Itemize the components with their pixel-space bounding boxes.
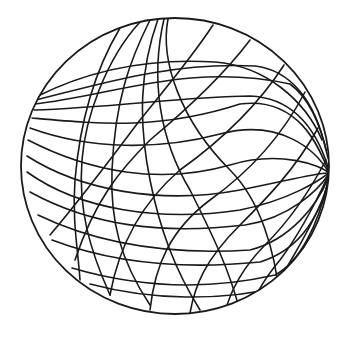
longitude-curve-9	[150, 92, 305, 310]
latitude-curve-5	[30, 128, 329, 173]
latitude-curve-7	[27, 156, 329, 196]
sphere-illustration: wireframe sphere line drawing	[0, 0, 346, 337]
latitude-curve-12	[72, 182, 328, 285]
longitude-curve-10	[190, 128, 318, 313]
sphere-wireframe-graphic	[0, 0, 346, 337]
